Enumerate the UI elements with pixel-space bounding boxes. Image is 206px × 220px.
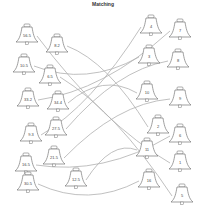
bell-handle-icon xyxy=(146,45,152,48)
bell-handle-icon xyxy=(179,184,185,187)
right-bell-1[interactable]: 7 xyxy=(169,19,191,40)
bell-clapper-icon xyxy=(148,187,151,190)
bell-handle-icon xyxy=(28,123,34,126)
right-bell-8[interactable]: 11 xyxy=(136,138,158,159)
bell-clapper-icon xyxy=(30,141,33,144)
bell-label: 33.2 xyxy=(24,97,33,102)
bell-handle-icon xyxy=(177,87,183,90)
bell-label: 6.5 xyxy=(47,74,53,79)
bell-clapper-icon xyxy=(157,133,160,136)
bell-clapper-icon xyxy=(55,135,58,138)
bell-label: 16 xyxy=(147,178,152,183)
left-bell-9[interactable]: 21.5 xyxy=(43,146,65,167)
bell-clapper-icon xyxy=(150,33,153,36)
right-bell-6[interactable]: 2 xyxy=(147,115,169,136)
bell-handle-icon xyxy=(21,54,27,57)
left-bell-4[interactable]: 33.2 xyxy=(17,88,39,109)
bell-label: 34.4 xyxy=(54,100,63,105)
connector-line xyxy=(38,181,139,195)
bell-label: 10.5 xyxy=(20,63,29,68)
matching-canvas: 56.58.210.56.533.234.49.327.516.521.530.… xyxy=(0,0,206,220)
left-bell-6[interactable]: 9.3 xyxy=(20,123,42,144)
bell-handle-icon xyxy=(177,19,183,22)
left-bell-1[interactable]: 8.2 xyxy=(46,34,68,55)
bell-handle-icon xyxy=(155,115,161,118)
bell-label: 21.5 xyxy=(50,155,59,160)
bell-clapper-icon xyxy=(49,83,52,86)
bell-clapper-icon xyxy=(27,106,30,109)
bell-handle-icon xyxy=(54,34,60,37)
bell-clapper-icon xyxy=(56,52,59,55)
bell-clapper-icon xyxy=(53,164,56,167)
bell-clapper-icon xyxy=(146,156,149,159)
bell-clapper-icon xyxy=(75,186,78,189)
right-bell-2[interactable]: 3 xyxy=(138,45,160,66)
bell-handle-icon xyxy=(25,172,31,175)
bell-handle-icon xyxy=(146,169,152,172)
right-bell-11[interactable]: 5 xyxy=(171,184,193,205)
bell-handle-icon xyxy=(177,151,183,154)
bell-label: 10 xyxy=(145,90,150,95)
bell-clapper-icon xyxy=(179,142,182,145)
bell-label: 16.5 xyxy=(22,162,31,167)
right-bell-7[interactable]: 6 xyxy=(169,124,191,145)
bells-layer: 56.58.210.56.533.234.49.327.516.521.530.… xyxy=(13,15,193,205)
bell-handle-icon xyxy=(144,81,150,84)
right-bell-9[interactable]: 1 xyxy=(169,151,191,172)
bell-label: 12.5 xyxy=(72,177,81,182)
bell-label: 8.2 xyxy=(54,43,60,48)
bell-clapper-icon xyxy=(181,202,184,205)
right-bell-10[interactable]: 16 xyxy=(138,169,160,190)
bell-label: 30.5 xyxy=(24,181,33,186)
bell-handle-icon xyxy=(51,146,57,149)
bell-clapper-icon xyxy=(23,72,26,75)
left-bell-8[interactable]: 16.5 xyxy=(15,153,37,174)
bell-handle-icon xyxy=(148,15,154,18)
bell-handle-icon xyxy=(47,65,53,68)
bell-handle-icon xyxy=(55,91,61,94)
left-bell-2[interactable]: 10.5 xyxy=(13,54,35,75)
connector-line xyxy=(86,148,137,180)
bell-handle-icon xyxy=(24,24,30,27)
right-bell-0[interactable]: 4 xyxy=(140,15,162,36)
bell-clapper-icon xyxy=(177,67,180,70)
bell-handle-icon xyxy=(23,153,29,156)
bell-handle-icon xyxy=(25,88,31,91)
bell-clapper-icon xyxy=(179,105,182,108)
right-bell-4[interactable]: 10 xyxy=(136,81,158,102)
bell-clapper-icon xyxy=(27,190,30,193)
bell-label: 27.5 xyxy=(52,126,61,131)
bell-handle-icon xyxy=(53,117,59,120)
bell-clapper-icon xyxy=(26,42,29,45)
left-bell-11[interactable]: 12.5 xyxy=(65,168,87,189)
connector-line xyxy=(68,85,137,103)
bell-clapper-icon xyxy=(146,99,149,102)
left-bell-7[interactable]: 27.5 xyxy=(45,117,67,138)
bell-handle-icon xyxy=(144,138,150,141)
bell-handle-icon xyxy=(73,168,79,171)
left-bell-3[interactable]: 6.5 xyxy=(39,65,61,86)
bell-handle-icon xyxy=(175,49,181,52)
bell-clapper-icon xyxy=(179,37,182,40)
bell-clapper-icon xyxy=(179,169,182,172)
bell-label: 56.5 xyxy=(23,33,32,38)
left-bell-10[interactable]: 30.5 xyxy=(17,172,39,193)
right-bell-5[interactable]: 9 xyxy=(169,87,191,108)
bell-clapper-icon xyxy=(57,109,60,112)
left-bell-0[interactable]: 56.5 xyxy=(16,24,38,45)
bell-clapper-icon xyxy=(148,63,151,66)
bell-handle-icon xyxy=(177,124,183,127)
right-bell-3[interactable]: 8 xyxy=(167,49,189,70)
bell-label: 9.3 xyxy=(28,132,34,137)
